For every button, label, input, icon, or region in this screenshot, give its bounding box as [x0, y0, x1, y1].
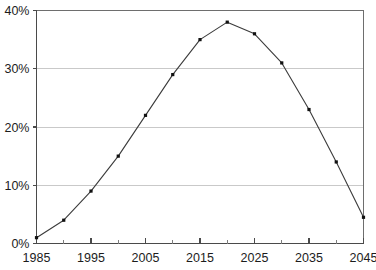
y-axis-ticks: [33, 11, 37, 244]
gridlines-group: [37, 11, 364, 186]
y-axis-tick-label: 40%: [4, 4, 29, 18]
chart-container: 0%10%20%30%40% 1985199520052015202520352…: [0, 0, 376, 270]
x-axis-tick-label: 1985: [23, 251, 51, 265]
y-axis-tick-label: 30%: [4, 62, 29, 76]
data-point: [117, 155, 120, 158]
data-point: [144, 114, 147, 117]
data-point: [253, 32, 256, 35]
x-axis-ticks: [37, 238, 364, 244]
data-point: [307, 108, 310, 111]
x-axis-tick-label: 2005: [132, 251, 160, 265]
data-point: [280, 61, 283, 64]
data-point: [171, 73, 174, 76]
line-chart: 0%10%20%30%40% 1985199520052015202520352…: [0, 0, 376, 270]
y-axis-tick-label: 20%: [4, 121, 29, 135]
series-line-series-1: [37, 22, 364, 238]
data-point: [35, 236, 38, 239]
y-axis-tick-label: 10%: [4, 179, 29, 193]
data-point: [89, 189, 92, 192]
x-axis-tick-label: 2025: [241, 251, 269, 265]
data-point: [198, 38, 201, 41]
x-axis-tick-labels: 1985199520052015202520352045: [23, 251, 376, 265]
x-axis-tick-label: 2045: [350, 251, 376, 265]
data-point: [62, 219, 65, 222]
data-point: [362, 216, 365, 219]
data-point: [226, 21, 229, 24]
y-axis-tick-label: 0%: [11, 237, 29, 251]
x-axis-tick-label: 1995: [77, 251, 105, 265]
data-point: [335, 160, 338, 163]
x-axis-tick-label: 2015: [186, 251, 214, 265]
y-axis-tick-labels: 0%10%20%30%40%: [4, 4, 29, 251]
data-series-group: [35, 21, 365, 240]
x-axis-tick-label: 2035: [295, 251, 323, 265]
